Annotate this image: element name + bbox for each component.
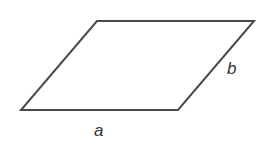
base-label-a: a: [94, 121, 103, 140]
parallelogram-diagram: b a: [0, 0, 267, 147]
parallelogram-shape: [21, 21, 254, 110]
side-label-b: b: [227, 59, 236, 78]
